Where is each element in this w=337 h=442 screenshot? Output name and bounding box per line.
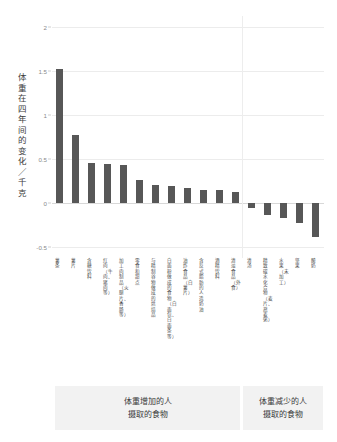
bar bbox=[200, 190, 207, 203]
bar bbox=[56, 69, 63, 203]
bar bbox=[152, 185, 159, 203]
x-tick-label: 精致碳水化合物（麦片、燕麦粥） bbox=[263, 258, 272, 323]
x-tick-label: 油炸食品（白薯片） bbox=[183, 258, 192, 296]
y-tick-mark bbox=[48, 247, 51, 248]
bar bbox=[280, 203, 287, 218]
x-tick-label: 清汤 bbox=[247, 258, 256, 269]
legend-weight-loss-line2: 摄取的食物 bbox=[263, 408, 303, 421]
y-tick-mark bbox=[48, 26, 51, 27]
bar bbox=[168, 186, 175, 203]
bar bbox=[136, 180, 143, 203]
y-tick-label: 2 bbox=[44, 23, 47, 30]
y-tick-mark bbox=[48, 159, 51, 160]
bar bbox=[312, 203, 319, 236]
gridline bbox=[52, 159, 324, 160]
x-tick-label: 红肉（牛肉、猪肉等） bbox=[103, 258, 112, 296]
gridline bbox=[52, 115, 324, 116]
x-tick-label: 酒精饮料 bbox=[215, 258, 224, 280]
x-tick-label: 酸奶 bbox=[311, 258, 320, 269]
bar bbox=[264, 203, 271, 215]
y-tick-mark bbox=[48, 203, 51, 204]
bar bbox=[296, 203, 303, 222]
gridline bbox=[52, 71, 324, 72]
x-tick-label: 薯条 bbox=[55, 258, 64, 269]
y-tick-label: -0.5 bbox=[36, 244, 47, 251]
legend-weight-gain: 体重增加的人 摄取的食物 bbox=[55, 386, 240, 430]
x-tick-label: 白面粉做成的食物（白面包、白面条等） bbox=[167, 258, 176, 339]
y-tick-label: 1 bbox=[44, 111, 47, 118]
bar bbox=[216, 190, 223, 203]
y-tick-label: 0 bbox=[44, 200, 47, 207]
y-tick-mark bbox=[48, 70, 51, 71]
x-tick-label: 与精制谷物做成的烘焙品 bbox=[151, 258, 160, 317]
gridline bbox=[52, 247, 324, 248]
legend-weight-gain-line2: 摄取的食物 bbox=[128, 408, 168, 421]
y-tick-mark bbox=[48, 114, 51, 115]
group-divider bbox=[242, 16, 243, 258]
legend-row: 体重增加的人 摄取的食物 体重减少的人 摄取的食物 bbox=[55, 386, 323, 430]
bar bbox=[232, 192, 239, 203]
legend-weight-loss-line1: 体重减少的人 bbox=[259, 395, 307, 408]
bar bbox=[184, 188, 191, 203]
bar bbox=[104, 164, 111, 203]
x-tick-label: 坚果 bbox=[295, 258, 304, 269]
y-axis-title: 体重在四年间的变化／千克 bbox=[14, 72, 30, 198]
y-tick-label: 1.5 bbox=[38, 67, 47, 74]
bar bbox=[248, 203, 255, 208]
plot-area: 21.510.50-0.5 bbox=[52, 18, 324, 256]
y-tick-label: 0.5 bbox=[38, 156, 47, 163]
bar bbox=[120, 165, 127, 203]
gridline bbox=[52, 27, 324, 28]
x-tick-label: 清淡食品（外食） bbox=[231, 258, 240, 290]
legend-weight-gain-line1: 体重增加的人 bbox=[124, 395, 172, 408]
x-axis-labels: 薯条薯片含糖饮料红肉（牛肉、猪肉等）加工肉制品（火腿片、香肠等）零食和甜点与精制… bbox=[52, 258, 324, 373]
x-tick-label: 水果（未加工） bbox=[279, 258, 288, 285]
x-tick-label: 零食和甜点 bbox=[135, 258, 144, 285]
legend-weight-loss: 体重减少的人 摄取的食物 bbox=[243, 386, 323, 430]
bar bbox=[88, 163, 95, 204]
x-tick-label: 含糖饮料 bbox=[87, 258, 96, 280]
x-tick-label: 含反式脂肪的人造奶油 bbox=[199, 258, 208, 312]
x-tick-label: 薯片 bbox=[71, 258, 80, 269]
chart-figure: 体重在四年间的变化／千克 21.510.50-0.5 薯条薯片含糖饮料红肉（牛肉… bbox=[0, 0, 337, 442]
bar bbox=[72, 135, 79, 203]
x-tick-label: 加工肉制品（火腿片、香肠等） bbox=[119, 258, 128, 317]
